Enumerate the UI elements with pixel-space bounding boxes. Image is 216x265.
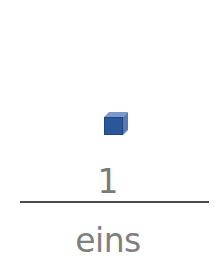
divider-line [20,201,209,203]
number-card: 1 eins [0,0,216,265]
blue-cube-icon [104,112,128,135]
numeral-label: 1 [0,164,216,200]
number-word-label: eins [0,222,216,260]
